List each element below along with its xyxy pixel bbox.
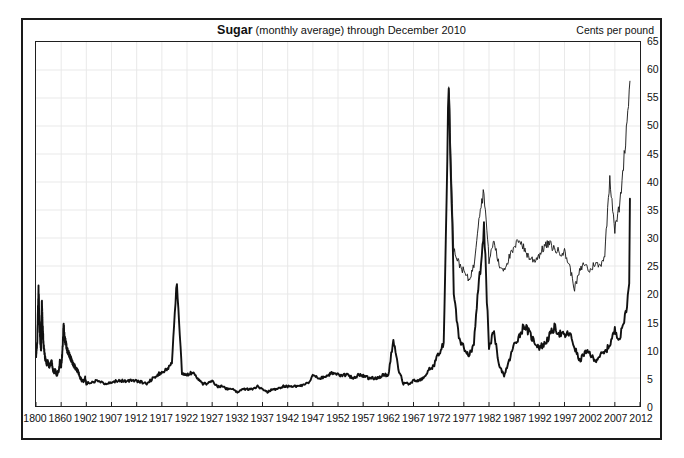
y-axis-tick-label: 20 bbox=[647, 289, 659, 299]
x-axis-tick-label: 1937 bbox=[251, 412, 274, 424]
x-axis-tick-label: 1952 bbox=[326, 412, 349, 424]
chart-title-bar: Sugar (monthly average) through December… bbox=[23, 20, 660, 41]
x-axis-tick-label: 1932 bbox=[225, 412, 248, 424]
x-axis-tick-label: 1982 bbox=[478, 412, 501, 424]
y-axis-tick-label: 10 bbox=[647, 346, 659, 356]
units-label: Cents per pound bbox=[576, 24, 654, 36]
y-axis-tick-label: 0 bbox=[647, 402, 653, 412]
gridlines bbox=[36, 42, 640, 406]
axis-tickmarks bbox=[36, 402, 640, 406]
x-axis-tick-label: 1977 bbox=[453, 412, 476, 424]
x-axis-tick-label: 1860 bbox=[49, 412, 72, 424]
page-title: Sugar (monthly average) through December… bbox=[23, 23, 660, 37]
y-axis-tick-label: 5 bbox=[647, 374, 653, 384]
x-axis-tick-label: 1967 bbox=[402, 412, 425, 424]
chart-frame: Sugar (monthly average) through December… bbox=[21, 18, 662, 440]
x-axis-tick-label: 1957 bbox=[352, 412, 375, 424]
data-series bbox=[36, 81, 630, 393]
x-axis-tick-label: 1917 bbox=[150, 412, 173, 424]
x-axis-tick-label: 1972 bbox=[427, 412, 450, 424]
y-axis-tick-label: 55 bbox=[647, 92, 659, 102]
x-axis-tick-label: 1997 bbox=[554, 412, 577, 424]
y-axis-tick-label: 40 bbox=[647, 177, 659, 187]
x-axis-tick-label: 1942 bbox=[276, 412, 299, 424]
x-axis-labels: 1800186019021907191219171922192719321937… bbox=[35, 412, 641, 428]
chart-title-sub: (monthly average) through December 2010 bbox=[253, 24, 466, 36]
plot-svg bbox=[36, 42, 640, 406]
y-axis-tick-label: 60 bbox=[647, 64, 659, 74]
x-axis-tick-label: 1947 bbox=[301, 412, 324, 424]
x-axis-tick-label: 1922 bbox=[175, 412, 198, 424]
x-axis-tick-label: 1992 bbox=[528, 412, 551, 424]
x-axis-tick-label: 1902 bbox=[74, 412, 97, 424]
x-axis-tick-label: 2002 bbox=[579, 412, 602, 424]
x-axis-tick-label: 1907 bbox=[99, 412, 122, 424]
y-axis-tick-label: 45 bbox=[647, 149, 659, 159]
x-axis-tick-label: 2012 bbox=[629, 412, 652, 424]
x-axis-tick-label: 1987 bbox=[503, 412, 526, 424]
y-axis-tick-label: 65 bbox=[647, 36, 659, 46]
x-axis-tick-label: 1927 bbox=[200, 412, 223, 424]
y-axis-tick-label: 50 bbox=[647, 120, 659, 130]
y-axis-tick-label: 35 bbox=[647, 205, 659, 215]
series-line-nominal bbox=[36, 89, 630, 393]
chart-title-main: Sugar bbox=[217, 23, 252, 37]
y-axis-tick-label: 15 bbox=[647, 318, 659, 328]
x-axis-tick-label: 1800 bbox=[23, 412, 46, 424]
x-axis-tick-label: 1962 bbox=[377, 412, 400, 424]
plot-area bbox=[35, 41, 641, 407]
x-axis-tick-label: 1912 bbox=[124, 412, 147, 424]
y-axis-tick-label: 30 bbox=[647, 233, 659, 243]
x-axis-tick-label: 2007 bbox=[604, 412, 627, 424]
y-axis-tick-label: 25 bbox=[647, 261, 659, 271]
